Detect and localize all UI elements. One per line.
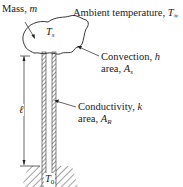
rod-left-wall bbox=[42, 52, 46, 187]
fin-heat-transfer-diagram: Mass, m Ambient temperature, T∞ Ts Conve… bbox=[0, 0, 183, 187]
convection-label: Convection, h area, As bbox=[101, 51, 160, 78]
diagram-graphics bbox=[0, 0, 183, 187]
ambient-temperature-label: Ambient temperature, T∞ bbox=[73, 7, 179, 22]
ground-right bbox=[56, 166, 78, 187]
conductivity-leader bbox=[56, 101, 76, 107]
convection-leader bbox=[79, 47, 99, 56]
surface-temperature-label: Ts bbox=[46, 26, 55, 41]
conductivity-label: Conductivity, k area, AR bbox=[78, 101, 142, 128]
rod-right-wall bbox=[52, 52, 56, 187]
base-temperature-label: T0 bbox=[44, 173, 55, 187]
mass-label: Mass, m bbox=[2, 3, 37, 15]
ground-left bbox=[22, 166, 42, 187]
length-label: ℓ bbox=[18, 104, 24, 116]
